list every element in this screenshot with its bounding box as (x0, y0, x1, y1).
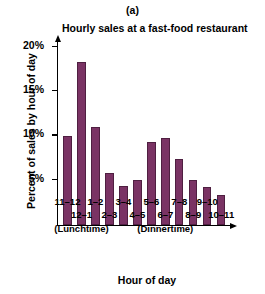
y-tick: 5% (52, 179, 58, 180)
x-axis-title: Hour of day (57, 274, 237, 286)
meal-annotation: (Dinnertime) (137, 223, 193, 234)
y-tick: 10% (52, 134, 58, 135)
x-tick-label: 1–2 (88, 196, 104, 207)
bar (147, 142, 155, 225)
x-tick-label: 11–12 (55, 196, 81, 207)
bar (91, 127, 99, 225)
bar (175, 159, 183, 225)
x-tick-label: 5–6 (143, 196, 159, 207)
x-tick-label: 8–9 (185, 209, 201, 220)
x-tick-label: 3–4 (115, 196, 131, 207)
y-tick-label: 5% (29, 172, 44, 184)
y-axis-arrow-icon (55, 35, 61, 42)
x-tick-label: 4–5 (129, 209, 145, 220)
x-tick-label: 10–11 (208, 209, 234, 220)
y-tick-label: 10% (23, 127, 44, 139)
x-tick-label: 9–10 (197, 196, 218, 207)
x-tick-label: 2–3 (101, 209, 117, 220)
meal-annotation: (Lunchtime) (54, 223, 108, 234)
figure: (a) Hourly sales at a fast-food restaura… (0, 0, 265, 294)
y-tick: 20% (52, 46, 58, 47)
panel-label: (a) (0, 4, 265, 16)
x-tick-label: 6–7 (157, 209, 173, 220)
chart-title: Hourly sales at a fast-food restaurant (62, 22, 262, 34)
x-axis-arrow-icon (230, 223, 237, 229)
y-tick-label: 20% (23, 39, 44, 51)
y-tick-label: 15% (23, 83, 44, 95)
y-tick: 15% (52, 90, 58, 91)
x-tick-label: 7–8 (171, 196, 187, 207)
x-tick-label: 12–1 (71, 209, 92, 220)
